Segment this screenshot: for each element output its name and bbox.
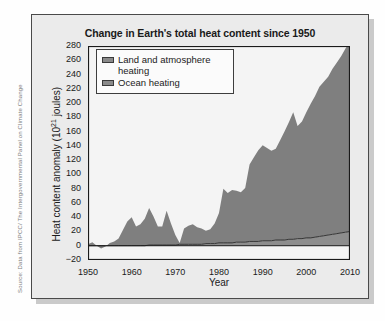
legend-label-ocean: Ocean heating bbox=[118, 77, 180, 88]
y-tick--20: −20 bbox=[55, 254, 81, 264]
x-tick-1980: 1980 bbox=[202, 267, 236, 277]
y-tick-100: 100 bbox=[55, 168, 81, 178]
y-tick-180: 180 bbox=[55, 111, 81, 121]
legend-item-land: Land and atmosphere heating bbox=[102, 54, 226, 76]
chart-legend: Land and atmosphere heating Ocean heatin… bbox=[96, 49, 234, 94]
y-tick-200: 200 bbox=[55, 97, 81, 107]
legend-swatch-land-icon bbox=[102, 57, 114, 63]
x-tick-2000: 2000 bbox=[289, 267, 323, 277]
y-tick-240: 240 bbox=[55, 69, 81, 79]
figure-root: Source: Data from IPCC/ The Intergovernm… bbox=[0, 0, 385, 321]
y-tick-20: 20 bbox=[55, 225, 81, 235]
x-tick-1990: 1990 bbox=[246, 267, 280, 277]
legend-item-ocean: Ocean heating bbox=[102, 77, 226, 88]
source-credit: Source: Data from IPCC/ The Intergovernm… bbox=[17, 61, 23, 293]
y-tick-60: 60 bbox=[55, 197, 81, 207]
y-tick-40: 40 bbox=[55, 211, 81, 221]
x-tick-1960: 1960 bbox=[115, 267, 149, 277]
legend-label-land: Land and atmosphere heating bbox=[118, 54, 226, 76]
y-tick-260: 260 bbox=[55, 54, 81, 64]
y-tick-80: 80 bbox=[55, 183, 81, 193]
x-tick-1950: 1950 bbox=[71, 267, 105, 277]
chart-title: Change in Earth's total heat content sin… bbox=[32, 27, 368, 39]
legend-swatch-ocean-icon bbox=[102, 80, 114, 86]
y-tick-120: 120 bbox=[55, 154, 81, 164]
y-tick-0: 0 bbox=[55, 240, 81, 250]
y-tick-160: 160 bbox=[55, 126, 81, 136]
y-tick-140: 140 bbox=[55, 140, 81, 150]
x-axis-title: Year bbox=[88, 277, 350, 288]
x-tick-2010: 2010 bbox=[333, 267, 367, 277]
x-tick-1970: 1970 bbox=[158, 267, 192, 277]
y-tick-220: 220 bbox=[55, 83, 81, 93]
y-tick-280: 280 bbox=[55, 40, 81, 50]
chart-card: Change in Earth's total heat content sin… bbox=[31, 14, 369, 299]
